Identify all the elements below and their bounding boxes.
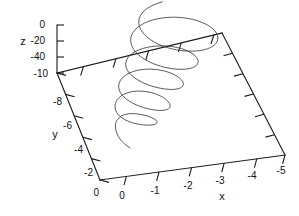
x-tick [283, 155, 285, 164]
y-tick-label: -10 [34, 68, 49, 79]
spiral-trajectory-curve [115, 2, 218, 148]
x-tick [124, 176, 126, 185]
right-back-tick [255, 114, 264, 116]
x-tick [222, 163, 224, 172]
x-tick-label: 0 [119, 190, 125, 201]
y-tick-label: -4 [74, 144, 83, 155]
z-tick-label: -40 [31, 51, 46, 62]
x-tick-label: -5 [277, 165, 286, 176]
y-axis-label: y [52, 128, 58, 140]
back-top-edge [57, 33, 222, 73]
back-top-tick [113, 59, 116, 68]
back-top-tick [146, 51, 149, 60]
right-back-tick [266, 135, 275, 137]
z-axis-ticks [57, 25, 64, 73]
x-tick-label: -2 [184, 180, 193, 191]
x-tick [254, 159, 256, 168]
right-back-tick [224, 53, 233, 55]
z-tick-labels: 0 -20 -40 [31, 19, 46, 62]
right-back-tick [245, 94, 254, 96]
back-top-tick [81, 67, 84, 76]
x-axis-label: x [219, 190, 225, 202]
y-tick [100, 180, 109, 182]
right-back-edge-ticks [224, 53, 275, 137]
x-axis-ticks [124, 155, 285, 185]
x-axis-line [100, 155, 285, 180]
x-tick [189, 168, 191, 177]
z-tick-label: 0 [39, 19, 45, 30]
back-top-tick [211, 35, 214, 44]
plot-canvas: 0 -20 -40 z -10 -8 -6 -4 -2 0 y 0 -1 -2 … [0, 0, 299, 216]
x-tick-label: -4 [248, 170, 257, 181]
right-back-tick [234, 74, 243, 76]
y-tick-labels: -10 -8 -6 -4 -2 0 [34, 68, 100, 198]
y-tick-label: 0 [93, 187, 99, 198]
z-tick-label: -20 [31, 35, 46, 46]
y-tick-label: -8 [53, 96, 62, 107]
y-tick-label: -2 [84, 167, 93, 178]
x-tick-label: -3 [216, 175, 225, 186]
x-tick-label: -1 [151, 185, 160, 196]
x-tick [157, 172, 159, 181]
x-tick-labels: 0 -1 -2 -3 -4 -5 [119, 165, 286, 201]
plot-figure: 0 -20 -40 z -10 -8 -6 -4 -2 0 y 0 -1 -2 … [0, 0, 299, 216]
z-axis-label: z [20, 35, 26, 47]
y-tick-label: -6 [63, 120, 72, 131]
